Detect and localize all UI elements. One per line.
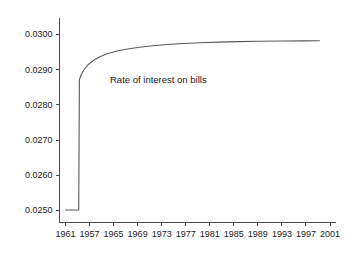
y-tick-label: 0.0260 (25, 170, 53, 180)
plot-background (0, 0, 364, 256)
y-tick-label: 0.0270 (25, 135, 53, 145)
x-tick-label: 1985 (224, 229, 244, 239)
x-tick-label: 1997 (296, 229, 316, 239)
x-tick-label: 1973 (152, 229, 172, 239)
x-tick-label: 1981 (200, 229, 220, 239)
y-tick-label: 0.0250 (25, 205, 53, 215)
x-tick-label: 2001 (320, 229, 340, 239)
line-chart: 0.02500.02600.02700.02800.02900.0300 196… (0, 0, 364, 256)
chart-figure: 0.02500.02600.02700.02800.02900.0300 196… (0, 0, 364, 256)
x-tick-label: 1961 (55, 229, 75, 239)
x-tick-label: 1977 (176, 229, 196, 239)
x-tick-label: 1957 (80, 229, 100, 239)
y-tick-label: 0.0290 (25, 65, 53, 75)
series-annotation-label: Rate of interest on bills (110, 74, 207, 85)
x-tick-label: 1993 (272, 229, 292, 239)
x-tick-label: 1989 (248, 229, 268, 239)
x-tick-label: 1965 (104, 229, 124, 239)
y-tick-label: 0.0300 (25, 29, 53, 39)
x-tick-label: 1969 (128, 229, 148, 239)
y-tick-label: 0.0280 (25, 100, 53, 110)
